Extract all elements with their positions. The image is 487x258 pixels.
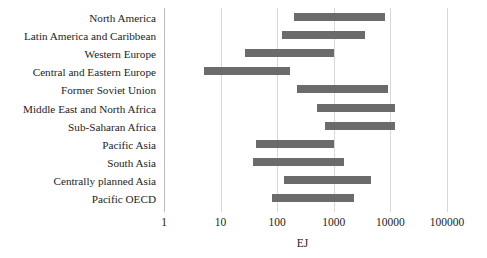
category-label: Sub-Saharan Africa (0, 121, 156, 133)
gridline-100 (277, 8, 278, 212)
range-bar (272, 194, 355, 202)
gridline-10 (221, 8, 222, 212)
range-bar (256, 140, 334, 148)
range-bar (297, 85, 388, 93)
x-tick-label: 1000 (322, 216, 345, 229)
category-label: South Asia (0, 157, 156, 169)
category-axis-labels: North AmericaLatin America and Caribbean… (0, 0, 160, 212)
category-label: Pacific OECD (0, 193, 156, 205)
range-bar (325, 122, 395, 130)
x-tick-label: 1 (161, 216, 167, 229)
x-tick-label: 10000 (376, 216, 405, 229)
category-label: Central and Eastern Europe (0, 66, 156, 78)
category-label: Pacific Asia (0, 139, 156, 151)
range-bar (294, 13, 385, 21)
x-tick-label: 100000 (430, 216, 465, 229)
gridline-100000 (447, 8, 448, 212)
category-label: Western Europe (0, 48, 156, 60)
range-bar (317, 104, 395, 112)
range-bar (204, 67, 291, 75)
category-label: North America (0, 12, 156, 24)
category-label: Middle East and North Africa (0, 103, 156, 115)
range-bar (253, 158, 344, 166)
range-bar (284, 176, 371, 184)
x-axis: EJ 110100100010000100000 (0, 212, 487, 258)
x-tick-label: 10 (215, 216, 227, 229)
range-bar (282, 31, 365, 39)
category-label: Latin America and Caribbean (0, 30, 156, 42)
x-axis-title: EJ (0, 237, 487, 249)
category-label: Centrally planned Asia (0, 175, 156, 187)
gridline-1 (164, 8, 165, 212)
x-tick-label: 100 (269, 216, 286, 229)
chart-figure: North AmericaLatin America and Caribbean… (0, 0, 487, 258)
range-bar (245, 49, 334, 57)
x-axis-title-text: EJ (297, 237, 309, 249)
category-label: Former Soviet Union (0, 84, 156, 96)
plot-area (164, 8, 447, 212)
